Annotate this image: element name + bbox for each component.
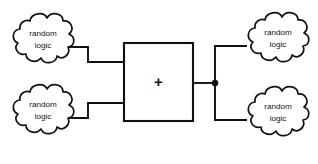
cloud-top-left-label-line2: logic [35,41,52,50]
cloud-top-left: random logic [13,14,73,63]
cloud-bottom-right: random logic [248,87,308,136]
cloud-bottom-right-label-line1: random [264,102,292,111]
wire-fanout-top [215,46,246,83]
cloud-top-right-label-line1: random [264,28,292,37]
wire-input-top [62,47,124,62]
cloud-top-left-label-line1: random [29,29,57,38]
wire-fanout-bottom [215,83,246,120]
cloud-bottom-left-label-line1: random [29,100,57,109]
diagram-canvas: + random logic random logic random logic… [0,0,318,164]
cloud-bottom-right-label-line2: logic [270,114,287,123]
cloud-top-right-label-line2: logic [270,40,287,49]
cloud-top-right: random logic [248,13,308,62]
adder-plus-symbol: + [154,73,163,90]
block-diagram: + random logic random logic random logic… [0,0,318,164]
junction-dot [212,80,218,86]
cloud-bottom-left: random logic [13,85,73,134]
cloud-bottom-left-label-line2: logic [35,112,52,121]
